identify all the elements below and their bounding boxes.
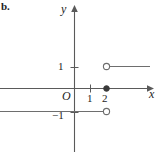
origin-label: O (62, 90, 71, 102)
y-tick-label-1: 1 (58, 61, 64, 72)
x-axis-label: x (149, 88, 154, 100)
open-circle-lower (103, 108, 109, 114)
y-tick-label-neg-1: −1 (52, 110, 64, 121)
x-tick-label-2: 2 (102, 93, 108, 104)
open-circle-upper (103, 63, 109, 69)
coordinate-plane (0, 0, 158, 152)
y-axis (71, 5, 78, 152)
x-tick-label-1: 1 (87, 93, 93, 104)
part-label: b. (1, 1, 10, 12)
x-axis (0, 85, 154, 92)
tick-marks (71, 68, 91, 113)
filled-point-origin-level (104, 86, 110, 92)
graph-figure: b. y x O 1 2 1 −1 (0, 0, 158, 152)
function-branch-right (103, 63, 150, 69)
y-axis-label: y (61, 3, 66, 15)
y-axis-arrowhead (71, 5, 78, 12)
